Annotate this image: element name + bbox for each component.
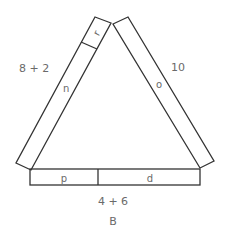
left-side-label: 8 + 2: [19, 62, 49, 75]
segment-label-r: r: [91, 28, 103, 38]
bottom-bar: [30, 169, 200, 185]
segment-label-p: p: [61, 173, 67, 184]
segment-label-o: o: [156, 79, 162, 90]
segment-label-d: d: [147, 173, 153, 184]
triangle-diagram: r n o p d 8 + 2 10 4 + 6 B: [0, 0, 229, 232]
diagram-caption: B: [109, 215, 117, 228]
left-bar-divider: [81, 42, 97, 49]
bottom-side-label: 4 + 6: [98, 195, 128, 208]
segment-label-n: n: [63, 83, 69, 94]
right-bar: [113, 17, 214, 168]
right-side-label: 10: [171, 61, 185, 74]
